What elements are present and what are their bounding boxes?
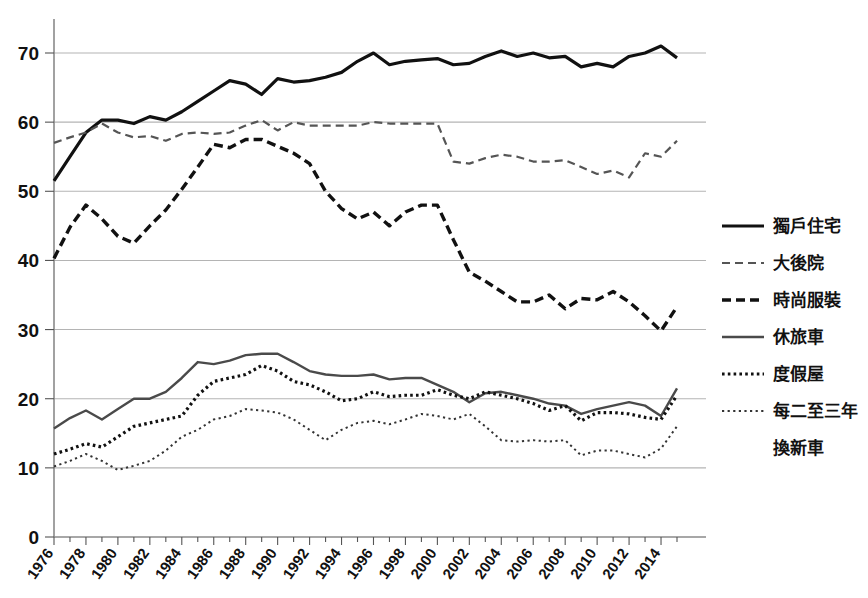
x-axis-label: 2006	[503, 545, 536, 582]
y-axis-label: 60	[18, 112, 39, 133]
x-tick-marks	[54, 537, 677, 545]
x-axis-label: 1976	[23, 545, 56, 582]
legend-label[interactable]: 時尚服裝	[773, 290, 842, 310]
x-axis-label: 2012	[598, 545, 631, 582]
x-axis-label: 1978	[55, 545, 88, 582]
x-axis-label: 2004	[471, 544, 504, 582]
x-axis-label: 1996	[343, 545, 376, 582]
y-axis-label: 50	[18, 181, 39, 202]
y-axis-label: 30	[18, 320, 39, 341]
legend: 獨戶住宅大後院時尚服裝休旅車度假屋每二至三年換新車	[722, 216, 858, 458]
y-axis-label: 70	[18, 43, 39, 64]
legend-label[interactable]: 獨戶住宅	[772, 216, 841, 236]
x-axis-label: 1982	[119, 545, 152, 582]
series-line	[54, 354, 677, 429]
legend-label[interactable]: 每二至三年	[773, 401, 858, 421]
x-axis-label: 1986	[183, 545, 216, 582]
y-axis-labels: 010203040506070	[18, 43, 39, 548]
y-axis-label: 20	[18, 389, 39, 410]
x-axis-label: 2002	[439, 545, 472, 582]
legend-label[interactable]: 換新車	[773, 438, 824, 458]
legend-label[interactable]: 休旅車	[772, 327, 824, 347]
legend-label[interactable]: 大後院	[773, 253, 824, 273]
x-axis-label: 1998	[375, 545, 408, 582]
series-line	[54, 120, 677, 177]
y-axis-label: 0	[28, 527, 39, 548]
series-line	[54, 46, 677, 181]
x-axis-label: 1990	[247, 545, 280, 582]
x-axis-label: 2000	[407, 545, 440, 582]
line-chart: 010203040506070 197619781980198219841986…	[0, 0, 868, 598]
chart-svg: 010203040506070 197619781980198219841986…	[0, 0, 868, 598]
x-axis-label: 2014	[630, 544, 663, 582]
x-axis-label: 1992	[279, 545, 312, 582]
axes	[45, 19, 706, 537]
legend-label[interactable]: 度假屋	[773, 364, 824, 384]
x-axis-labels: 1976197819801982198419861988199019921994…	[23, 544, 663, 582]
x-axis-label: 1984	[151, 544, 184, 582]
y-axis-label: 40	[18, 250, 39, 271]
series-lines	[54, 46, 677, 470]
x-axis-label: 2008	[535, 545, 568, 582]
x-axis-label: 1988	[215, 545, 248, 582]
x-axis-label: 1994	[311, 544, 344, 582]
series-line	[54, 366, 677, 455]
y-axis-label: 10	[18, 458, 39, 479]
x-axis-label: 2010	[567, 545, 600, 582]
x-axis-label: 1980	[87, 545, 120, 582]
